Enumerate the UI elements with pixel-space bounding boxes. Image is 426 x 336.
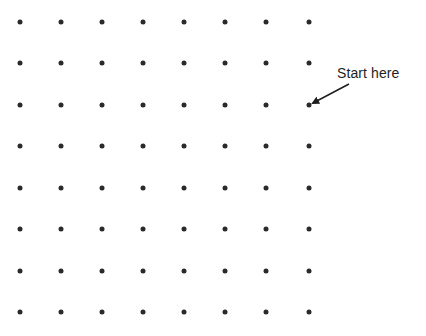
start-here-label: Start here [337,65,399,81]
dot-grid-diagram: Start here [0,0,426,336]
arrow-icon [0,0,426,336]
